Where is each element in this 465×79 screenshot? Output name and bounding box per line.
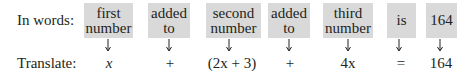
phrase-line2: to [283,21,295,36]
phrase-line2: to [163,21,175,36]
phrase-line2: number [86,21,132,36]
translation-plus: + [166,55,174,72]
phrase-box-added-to-2: added to [268,3,310,38]
translation-164: 164 [430,55,453,72]
phrase-line1: second [213,6,255,21]
down-arrow-icon [343,38,353,52]
translation-x: x [106,55,113,72]
down-arrow-icon [164,38,174,52]
phrase-line1: first [96,6,120,21]
phrase-line1: added [151,6,187,21]
phrase-line1: added [271,6,307,21]
phrase-box-is: is [387,3,416,38]
down-arrow-icon [435,38,445,52]
translation-2x-plus-3: (2x + 3) [208,55,256,72]
phrase-line2: number [211,21,257,36]
down-arrow-icon [394,38,404,52]
phrase-line1: is [396,13,406,28]
phrase-box-added-to: added to [148,3,190,38]
phrase-box-164: 164 [426,3,457,38]
down-arrow-icon [284,38,294,52]
down-arrow-icon [224,38,234,52]
phrase-line2: number [325,21,371,36]
down-arrow-icon [103,38,113,52]
translate-row-label: Translate: [17,55,76,72]
phrase-box-second-number: second number [206,3,261,38]
phrase-line1: 164 [430,13,453,28]
translation-plus-2: + [286,55,294,72]
translation-equals: = [397,55,405,72]
words-row-label: In words: [17,12,74,29]
phrase-line1: third [334,6,362,21]
phrase-box-third-number: third number [323,3,373,38]
phrase-box-first-number: first number [84,3,133,38]
translation-4x: 4x [341,55,356,72]
